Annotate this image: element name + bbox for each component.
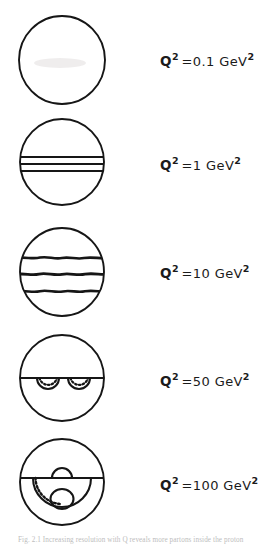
quark-wavy-lines — [16, 257, 114, 292]
q2-label: Q2=50 GeV2 — [160, 372, 249, 388]
large-arc-below-line — [33, 478, 91, 507]
structure-function-figure: Q2=0.1 GeV2 Q2=1 GeV2 — [0, 0, 279, 549]
proton-diagram-empty — [16, 10, 114, 110]
proton-circle — [20, 228, 104, 316]
q2-label-cell: Q2=50 GeV2 — [160, 330, 279, 430]
proton-diagram-sea-quarks — [16, 434, 114, 534]
figure-row: Q2=0.1 GeV2 — [0, 10, 279, 110]
q2-label: Q2=100 GeV2 — [160, 476, 258, 492]
proton-circle — [20, 119, 104, 205]
q2-label-cell: Q2=10 GeV2 — [160, 222, 279, 322]
figure-row: Q2=1 GeV2 — [0, 114, 279, 214]
figure-row: Q2=100 GeV2 — [0, 434, 279, 534]
parton-structure — [18, 378, 109, 389]
q2-label: Q2=1 GeV2 — [160, 156, 241, 172]
figure-row: Q2=10 GeV2 — [0, 222, 279, 322]
q2-label-cell: Q2=0.1 GeV2 — [160, 10, 279, 110]
q2-label: Q2=0.1 GeV2 — [160, 52, 254, 68]
valence-lines — [16, 157, 114, 171]
paper-smudge — [34, 58, 86, 68]
q2-label-cell: Q2=1 GeV2 — [160, 114, 279, 214]
parton-structure — [18, 468, 108, 509]
wavy-quark-line — [16, 274, 114, 275]
q2-label-cell: Q2=100 GeV2 — [160, 434, 279, 534]
wavy-quark-line — [16, 291, 114, 292]
figure-caption: Fig. 2.1 Increasing resolution with Q re… — [18, 536, 268, 548]
proton-diagram-wavy-lines — [16, 222, 114, 322]
proton-diagram-two-loops — [16, 330, 114, 430]
proton-diagram-three-lines — [16, 114, 114, 214]
q2-label: Q2=10 GeV2 — [160, 264, 249, 280]
wavy-quark-line — [16, 257, 114, 258]
small-arc-above-line — [52, 468, 72, 478]
figure-row: Q2=50 GeV2 — [0, 330, 279, 430]
